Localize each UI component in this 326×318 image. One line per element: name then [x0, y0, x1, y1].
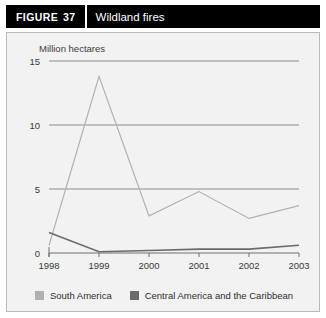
legend-swatch-south-america — [35, 291, 44, 300]
figure-label-text: FIGURE — [16, 11, 58, 23]
y-tick-label: 0 — [35, 248, 40, 259]
figure-header: FIGURE37 Wildland fires — [6, 5, 320, 28]
x-tick-label: 1999 — [88, 260, 109, 271]
legend-item-central-america: Central America and the Caribbean — [130, 290, 293, 301]
x-tick-label: 1998 — [38, 260, 59, 271]
y-tick-label: 10 — [29, 120, 40, 131]
figure-label: FIGURE37 — [6, 11, 85, 23]
series-line-central-america — [49, 233, 299, 252]
legend-swatch-central-america — [130, 291, 139, 300]
x-tick-label: 2002 — [238, 260, 259, 271]
figure-number: 37 — [63, 11, 75, 23]
figure-card: FIGURE37 Wildland fires Million hectares… — [0, 0, 326, 318]
y-tick-label: 15 — [29, 56, 40, 67]
x-tick-label: 2000 — [138, 260, 159, 271]
figure-title: Wildland fires — [87, 11, 165, 23]
line-chart-plot: 051015199819992000200120022003 — [7, 33, 321, 313]
chart-legend: South America Central America and the Ca… — [7, 290, 321, 301]
legend-item-south-america: South America — [35, 290, 112, 301]
x-tick-label: 2003 — [288, 260, 309, 271]
legend-label-central-america: Central America and the Caribbean — [145, 290, 293, 301]
x-tick-label: 2001 — [188, 260, 209, 271]
legend-label-south-america: South America — [50, 290, 112, 301]
chart-panel: Million hectares 05101519981999200020012… — [6, 32, 320, 312]
y-tick-label: 5 — [35, 184, 40, 195]
series-line-south-america — [49, 76, 299, 245]
